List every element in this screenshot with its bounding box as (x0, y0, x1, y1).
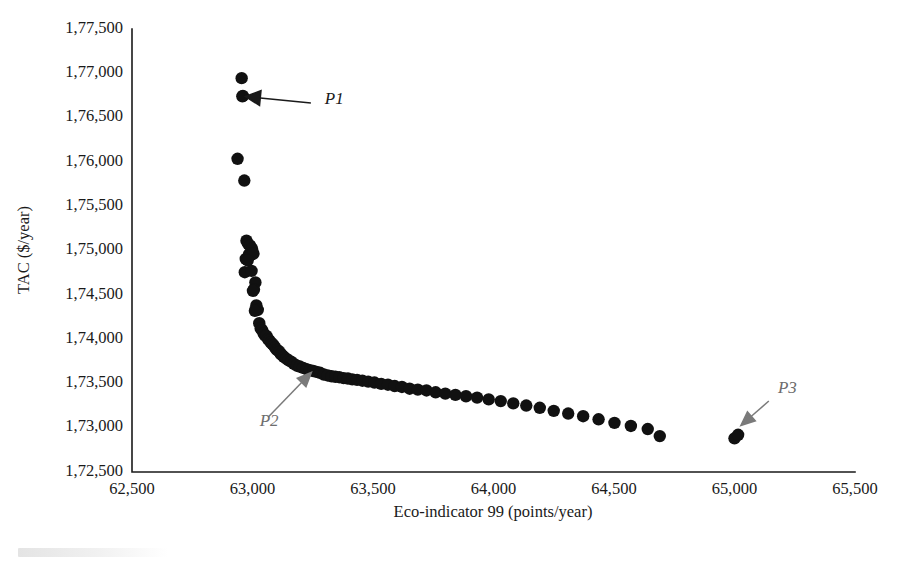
x-tick-label: 63,000 (230, 479, 275, 498)
data-point-group (231, 72, 744, 445)
data-point (608, 417, 620, 429)
data-point (592, 413, 604, 425)
x-tick-label: 63,500 (350, 479, 395, 498)
data-point (241, 254, 253, 266)
y-tick-label: 1,75,500 (65, 195, 123, 214)
y-tick-label: 1,73,000 (65, 416, 123, 435)
data-point (507, 397, 519, 409)
data-point (482, 393, 494, 405)
x-tick-label: 65,500 (832, 479, 877, 498)
annotation-arrow-shaft (751, 401, 768, 416)
x-tick-label: 64,000 (471, 479, 516, 498)
y-axis-title: TAC ($/year) (14, 206, 33, 294)
pareto-scatter-figure: 1,72,5001,73,0001,73,5001,74,0001,74,500… (0, 0, 911, 566)
annotation-label-p1: P1 (324, 89, 344, 108)
chart-canvas: 1,72,5001,73,0001,73,5001,74,0001,74,500… (0, 0, 911, 566)
data-point (449, 389, 461, 401)
x-tick-label: 62,500 (109, 479, 154, 498)
data-point (625, 420, 637, 432)
data-point (235, 72, 247, 84)
x-tick-label: 64,500 (591, 479, 636, 498)
y-tick-label: 1,75,000 (65, 239, 123, 258)
annotation-arrow-shaft (260, 98, 311, 103)
data-point (642, 423, 654, 435)
y-tick-label: 1,76,000 (65, 151, 123, 170)
data-point (562, 407, 574, 419)
data-point (460, 390, 472, 402)
y-axis-tick-group: 1,72,5001,73,0001,73,5001,74,0001,74,500… (65, 18, 123, 480)
data-point (471, 391, 483, 403)
y-tick-label: 1,76,500 (65, 106, 123, 125)
data-point (732, 429, 744, 441)
data-point (577, 410, 589, 422)
x-axis-tick-group: 62,50063,00063,50064,00064,50065,00065,5… (109, 479, 877, 498)
data-point (245, 265, 257, 277)
data-point (231, 153, 243, 165)
annotation-label-p3: P3 (777, 378, 797, 397)
data-point (249, 305, 261, 317)
y-tick-label: 1,74,500 (65, 284, 123, 303)
y-tick-label: 1,72,500 (65, 461, 123, 480)
y-tick-label: 1,74,000 (65, 328, 123, 347)
data-point (238, 174, 250, 186)
data-point (247, 285, 259, 297)
data-point (548, 405, 560, 417)
y-tick-label: 1,73,500 (65, 372, 123, 391)
caption-fragment (18, 548, 168, 557)
data-point (495, 395, 507, 407)
annotation-label-p2: P2 (259, 411, 279, 430)
data-point (534, 402, 546, 414)
x-tick-label: 65,000 (712, 479, 757, 498)
data-point (654, 430, 666, 442)
y-tick-label: 1,77,500 (65, 18, 123, 37)
y-tick-label: 1,77,000 (65, 62, 123, 81)
x-axis-title: Eco-indicator 99 (points/year) (394, 502, 593, 521)
data-point (520, 399, 532, 411)
